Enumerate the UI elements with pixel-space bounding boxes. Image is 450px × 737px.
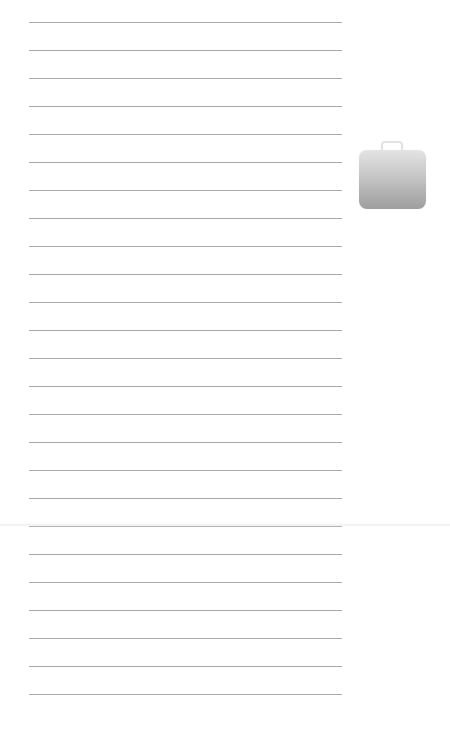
ruled-note-page — [0, 0, 450, 737]
ruled-line — [29, 582, 342, 583]
ruled-line — [29, 414, 342, 415]
ruled-line — [29, 246, 342, 247]
ruled-line — [29, 386, 342, 387]
ruled-line — [29, 302, 342, 303]
ruled-line — [29, 330, 342, 331]
ruled-line — [29, 50, 342, 51]
ruled-line — [29, 106, 342, 107]
ruled-line — [29, 610, 342, 611]
ruled-line — [29, 638, 342, 639]
ruled-line — [29, 22, 342, 23]
ruled-line — [29, 442, 342, 443]
ruled-line — [29, 218, 342, 219]
ruled-line — [29, 162, 342, 163]
ruled-line — [29, 694, 342, 695]
ruled-line — [29, 190, 342, 191]
ruled-line — [29, 358, 342, 359]
briefcase-bag-icon[interactable] — [359, 141, 426, 209]
ruled-line — [29, 666, 342, 667]
ruled-line — [29, 554, 342, 555]
ruled-line — [29, 274, 342, 275]
ruled-line — [29, 498, 342, 499]
ruled-line — [29, 78, 342, 79]
bag-body — [359, 150, 426, 209]
ruled-line — [29, 134, 342, 135]
ruled-line — [29, 470, 342, 471]
page-fold-shadow — [0, 523, 450, 527]
